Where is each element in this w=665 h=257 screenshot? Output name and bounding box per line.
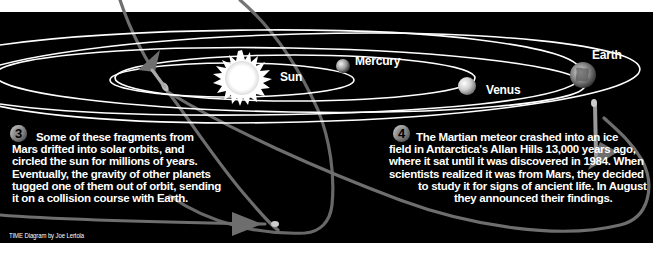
mercury-icon	[336, 59, 350, 73]
step-4-line: to study it for signs of ancient life. I…	[389, 180, 647, 192]
meteor-arrow-top	[138, 50, 170, 93]
solar-system-diagram: Sun Mercury Venus Earth 3 Some of these …	[0, 0, 665, 257]
step-3-line: Some of these fragments from	[12, 131, 221, 143]
step-3-line: it on a collision course with Earth.	[12, 192, 221, 204]
step-4-line: scientists realized it was from Mars, th…	[389, 168, 647, 180]
step-3-line: Mars drifted into solar orbits, and	[12, 143, 221, 155]
earth-icon	[570, 62, 596, 88]
step-4-line: they announced their findings.	[389, 192, 647, 204]
mercury-label: Mercury	[355, 54, 400, 68]
step-3-line: circled the sun for millions of years.	[12, 155, 221, 167]
step-4-caption: The Martian meteor crashed into an ice f…	[389, 131, 647, 204]
step-4-line: field in Antarctica's Allan Hills 13,000…	[389, 143, 647, 155]
step-4-line: where it sat until it was discovered in …	[389, 155, 647, 167]
orbit-diagram-art	[0, 0, 665, 257]
sun-label: Sun	[280, 70, 302, 84]
earth-label: Earth	[592, 48, 622, 62]
step-3-line: Eventually, the gravity of other planets	[12, 168, 221, 180]
step-3-line: tugged one of them out of orbit, sending	[12, 180, 221, 192]
venus-label: Venus	[486, 83, 520, 97]
step-4-line: The Martian meteor crashed into an ice	[389, 131, 647, 143]
credit-line: TIME Diagram by Joe Lertola	[9, 232, 84, 239]
step-3-caption: Some of these fragments from Mars drifte…	[12, 131, 221, 204]
venus-icon	[458, 77, 476, 95]
